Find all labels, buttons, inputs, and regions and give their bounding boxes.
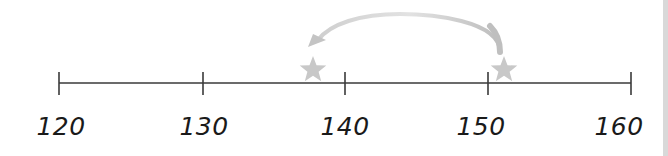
left-star-icon (300, 56, 327, 81)
tick-label-130: 130 (179, 112, 228, 141)
tick-label-120: 120 (36, 112, 85, 141)
number-line-diagram: 120 130 140 150 160 (0, 0, 668, 156)
edge-strip (663, 0, 668, 156)
jump-arrow (308, 14, 500, 52)
right-star-icon (491, 56, 518, 81)
tick-label-150: 150 (456, 112, 505, 141)
jump-arc (318, 14, 500, 52)
tick-label-140: 140 (320, 112, 369, 141)
tick-label-160: 160 (594, 112, 643, 141)
jump-arc-thick-end (490, 26, 500, 52)
